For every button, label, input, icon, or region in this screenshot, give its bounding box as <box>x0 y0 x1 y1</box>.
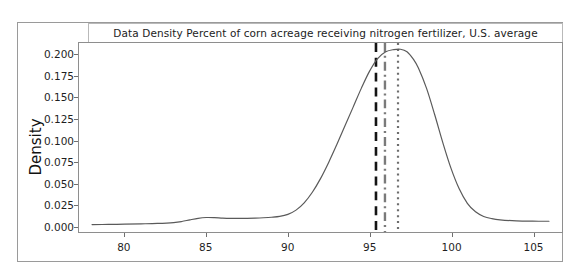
x-tick-label: 95 <box>363 241 376 253</box>
chart-title-box: Data Density Percent of corn acreage rec… <box>88 23 563 42</box>
page-title: Data Density Percent of corn acreage rec… <box>113 27 537 39</box>
x-tick-label: 90 <box>281 241 294 253</box>
x-tick-label: 105 <box>523 241 543 253</box>
x-tick-mark <box>534 233 535 237</box>
x-tick-mark <box>206 233 207 237</box>
x-axis-tick-labels: 80859095100105 <box>78 233 563 259</box>
x-tick-mark <box>452 233 453 237</box>
x-tick-mark <box>370 233 371 237</box>
x-tick-label: 100 <box>442 241 462 253</box>
x-tick-mark <box>288 233 289 237</box>
figure-root: Data Density Percent of corn acreage rec… <box>0 0 586 275</box>
x-tick-mark <box>124 233 125 237</box>
plot-canvas <box>79 43 562 232</box>
density-curve <box>92 49 549 225</box>
vertical-reference-lines <box>376 43 398 232</box>
x-tick-label: 80 <box>117 241 130 253</box>
y-axis-tick-marks <box>0 42 80 233</box>
x-tick-label: 85 <box>199 241 212 253</box>
plot-area <box>78 42 563 233</box>
